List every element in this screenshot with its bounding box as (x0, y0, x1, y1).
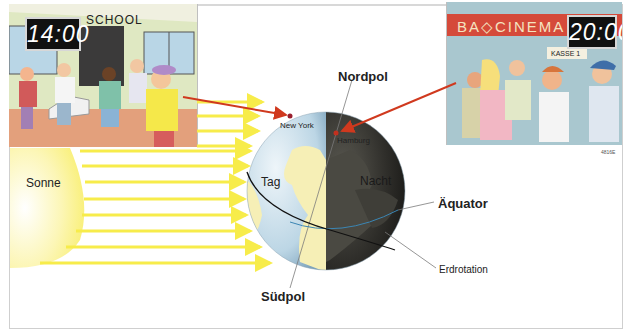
label-night: Nacht (360, 174, 391, 188)
sun (10, 148, 84, 268)
label-south-pole: Südpol (261, 289, 305, 304)
earth-day-night-diagram (0, 0, 629, 336)
label-day: Tag (261, 175, 280, 189)
label-rotation: Erdrotation (439, 264, 488, 275)
hamburg-marker (334, 131, 339, 136)
label-new-york: New York (280, 121, 314, 130)
label-sun: Sonne (26, 176, 61, 190)
arrow-cinema-to-hamburg (342, 83, 456, 131)
arrow-school-to-new-york (183, 97, 286, 115)
label-hamburg: Hamburg (337, 136, 370, 145)
new-york-marker (288, 114, 293, 119)
label-north-pole: Nordpol (338, 69, 388, 84)
label-equator: Äquator (438, 196, 488, 211)
